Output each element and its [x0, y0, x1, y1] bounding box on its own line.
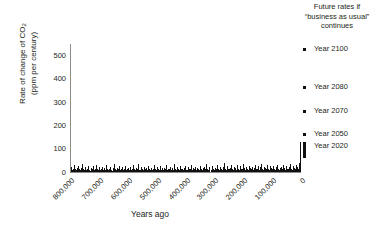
legend-item-year-2050: Year 2050: [296, 129, 378, 139]
y-tick-label: 100: [42, 144, 66, 153]
legend-item-year-2070: Year 2070: [296, 106, 378, 116]
legend-dot-marker: [303, 86, 306, 89]
y-axis-subscript: 2: [21, 23, 27, 26]
legend-item-label: Year 2050: [314, 129, 348, 139]
legend-title-line: continues: [296, 21, 378, 31]
legend-title: Future rates if“business as usual”contin…: [296, 2, 378, 31]
legend: Future rates if“business as usual”contin…: [296, 2, 378, 31]
legend-item-label: Year 2100: [314, 44, 348, 54]
legend-dot-marker: [303, 48, 306, 51]
x-axis-line: [70, 172, 301, 173]
legend-dot-marker: [303, 133, 306, 136]
y-axis-title-line2: (ppm per century): [29, 0, 39, 129]
co2-rate-of-change-chart: Rate of change of CO2 (ppm per century) …: [0, 0, 378, 237]
x-axis-title: Years ago: [0, 209, 300, 219]
legend-item-year-2100: Year 2100: [296, 44, 378, 54]
y-tick-label: 500: [42, 51, 66, 60]
y-tick-label: 400: [42, 74, 66, 83]
y-axis-title: Rate of change of CO2 (ppm per century): [18, 0, 39, 129]
y-tick-label: 0: [42, 168, 66, 177]
legend-title-line: “business as usual”: [296, 12, 378, 22]
legend-item-year-2020: Year 2020: [296, 141, 378, 151]
legend-item-label: Year 2080: [314, 82, 348, 92]
legend-item-label: Year 2020: [314, 141, 348, 151]
legend-bar-marker: [303, 142, 306, 158]
legend-item-year-2080: Year 2080: [296, 82, 378, 92]
legend-item-label: Year 2070: [314, 106, 348, 116]
y-tick-label: 300: [42, 98, 66, 107]
legend-title-line: Future rates if: [296, 2, 378, 12]
legend-dot-marker: [303, 110, 306, 113]
y-axis-title-line1: Rate of change of CO2: [18, 23, 27, 104]
plot-area: [70, 44, 301, 172]
y-tick-label: 200: [42, 121, 66, 130]
